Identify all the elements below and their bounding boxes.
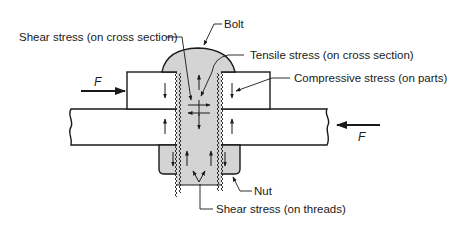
label-tensile-stress: Tensile stress (on cross section) bbox=[250, 49, 414, 61]
bolt-head bbox=[162, 48, 235, 72]
force-label-left: F bbox=[94, 75, 102, 89]
label-bolt: Bolt bbox=[224, 18, 245, 30]
label-compressive-stress: Compressive stress (on parts) bbox=[294, 72, 448, 84]
label-shear-cross-section: Shear stress (on cross section) bbox=[19, 31, 178, 43]
label-nut: Nut bbox=[254, 185, 273, 197]
force-label-right: F bbox=[358, 130, 366, 144]
label-shear-threads: Shear stress (on threads) bbox=[216, 203, 346, 215]
bolted-joint-diagram: F F Bolt Shear stress (on cross section)… bbox=[0, 0, 451, 231]
